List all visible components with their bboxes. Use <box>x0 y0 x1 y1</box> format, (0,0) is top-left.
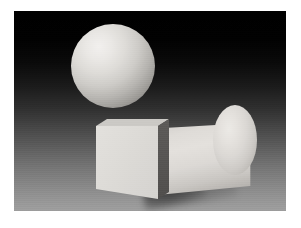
render-frame <box>0 0 301 228</box>
cylinder-end-cap <box>213 105 257 175</box>
scene-canvas <box>14 11 286 211</box>
sphere-object <box>71 24 155 108</box>
cube-object <box>75 111 175 206</box>
